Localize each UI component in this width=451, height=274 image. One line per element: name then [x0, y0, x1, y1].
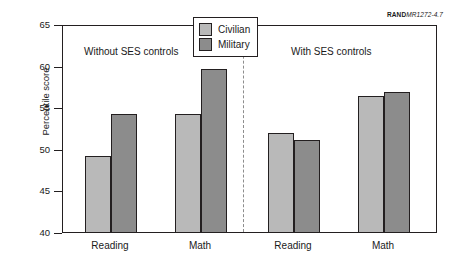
bar-military-math-with-ses[interactable]: [384, 92, 410, 233]
y-tick-label: 55: [24, 103, 50, 113]
x-label-reading-without-ses: Reading: [70, 240, 150, 251]
panel-caption-with-ses: With SES controls: [291, 46, 372, 57]
panel-caption-without-ses: Without SES controls: [84, 46, 178, 57]
legend-item-military[interactable]: Military: [199, 37, 250, 52]
legend-label-military: Military: [218, 40, 250, 50]
x-label-math-without-ses: Math: [160, 240, 240, 251]
y-tick-mark: [54, 191, 62, 192]
x-label-math-with-ses: Math: [343, 240, 423, 251]
legend-label-civilian: Civilian: [218, 25, 250, 35]
legend-item-civilian[interactable]: Civilian: [199, 22, 250, 37]
bar-civilian-math-with-ses[interactable]: [358, 96, 384, 233]
x-label-reading-with-ses: Reading: [253, 240, 333, 251]
y-tick-label: 40: [24, 228, 50, 238]
y-tick-mark: [54, 108, 62, 109]
y-tick-mark: [54, 25, 62, 26]
figure-id: RANDMR1272-4.7: [387, 11, 443, 18]
bar-military-math-without-ses[interactable]: [201, 69, 227, 233]
y-tick-label: 65: [24, 20, 50, 30]
y-tick-label: 60: [24, 62, 50, 72]
bar-military-reading-without-ses[interactable]: [111, 114, 137, 233]
legend-swatch-icon: [199, 23, 212, 36]
y-tick-mark: [54, 67, 62, 68]
figure-id-number: MR1272-4.7: [406, 11, 443, 18]
bar-civilian-reading-without-ses[interactable]: [85, 156, 111, 233]
bar-civilian-math-without-ses[interactable]: [175, 114, 201, 233]
y-tick-mark: [54, 233, 62, 234]
y-tick-mark: [54, 150, 62, 151]
y-tick-label: 45: [24, 186, 50, 196]
legend: Civilian Military: [193, 17, 258, 57]
bar-military-reading-with-ses[interactable]: [294, 140, 320, 233]
legend-swatch-icon: [199, 38, 212, 51]
y-tick-label: 50: [24, 145, 50, 155]
bar-civilian-reading-with-ses[interactable]: [268, 133, 294, 233]
figure-id-prefix: RAND: [387, 11, 406, 18]
